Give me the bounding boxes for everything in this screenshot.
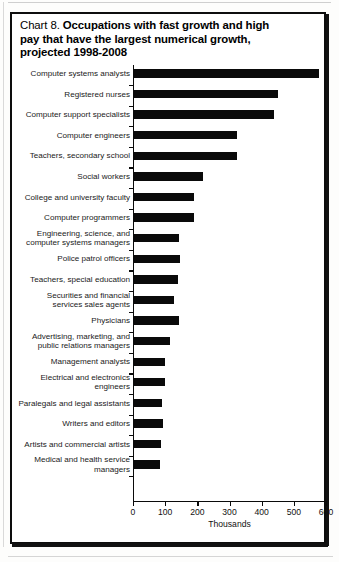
chart-title-line-2: pay that have the largest numerical grow… — [20, 33, 316, 47]
bar — [133, 460, 160, 468]
bar-category-label: Computer support specialists — [6, 106, 130, 119]
bar-category-label: Teachers, special education — [6, 271, 130, 284]
bar — [133, 440, 161, 448]
value-axis-tick-label: 200 — [182, 507, 212, 517]
bar-row: College and university faculty — [10, 189, 326, 210]
bar-row: Paralegals and legal assistants — [10, 395, 326, 416]
bar-category-label: Paralegals and legal assistants — [6, 395, 130, 408]
bar-category-label: Computer engineers — [6, 127, 130, 140]
bar — [133, 399, 162, 407]
bar-row: Writers and editors — [10, 415, 326, 436]
bar-category-label: Medical and health service managers — [6, 455, 130, 473]
bar-row: Registered nurses — [10, 86, 326, 107]
value-axis-tick — [133, 501, 134, 506]
bar-row: Computer programmers — [10, 209, 326, 230]
chart-number: Chart 8. — [20, 19, 60, 31]
value-axis-tick — [165, 501, 166, 506]
value-axis-tick-label: 300 — [215, 507, 245, 517]
bar-row: Computer engineers — [10, 127, 326, 148]
bar-category-label: Physicians — [6, 312, 130, 325]
bar-category-label: Police patrol officers — [6, 250, 130, 263]
bar-category-label: Engineering, science, and computer syste… — [6, 229, 130, 247]
bar-category-label: Advertising, marketing, and public relat… — [6, 332, 130, 350]
bar — [133, 131, 237, 139]
bar-row: Social workers — [10, 168, 326, 189]
bar-category-label: Computer systems analysts — [6, 65, 130, 78]
bar-row: Physicians — [10, 312, 326, 333]
bar-row: Electrical and electronics engineers — [10, 374, 326, 395]
bar-category-label: Computer programmers — [6, 209, 130, 222]
bar — [133, 234, 179, 242]
bar — [133, 316, 179, 324]
bar-row: Computer systems analysts — [10, 65, 326, 86]
bar-category-label: Securities and financial services sales … — [6, 291, 130, 309]
bar-row: Teachers, secondary school — [10, 147, 326, 168]
bar — [133, 378, 165, 386]
bar-category-label: Artists and commercial artists — [6, 436, 130, 449]
bar — [133, 419, 163, 427]
value-axis-tick — [230, 501, 231, 506]
bar-category-label: Teachers, secondary school — [6, 147, 130, 160]
chart-title-line-3: projected 1998-2008 — [20, 46, 316, 60]
chart-title: Chart 8. Occupations with fast growth an… — [20, 19, 316, 60]
category-axis-tick — [129, 476, 134, 477]
bar-category-label: Writers and editors — [6, 415, 130, 428]
bar-row: Teachers, special education — [10, 271, 326, 292]
bar-row: Advertising, marketing, and public relat… — [10, 333, 326, 354]
bar-row: Artists and commercial artists — [10, 436, 326, 457]
figure-page: Chart 8. Occupations with fast growth an… — [0, 0, 339, 562]
value-axis-tick — [294, 501, 295, 506]
page-bleed-top-rule — [8, 2, 331, 3]
bar-category-label: College and university faculty — [6, 189, 130, 202]
value-axis-tick-labels: 0100200300400500600 — [10, 507, 326, 519]
bar — [133, 337, 170, 345]
bar-category-label: Electrical and electronics engineers — [6, 373, 130, 391]
value-axis-tick-label: 500 — [279, 507, 309, 517]
bar — [133, 358, 165, 366]
bar-rows: Computer systems analystsRegistered nurs… — [10, 65, 326, 477]
bar-row: Management analysts — [10, 353, 326, 374]
value-axis-tick — [262, 501, 263, 506]
page-bleed-bottom-rule — [8, 556, 333, 557]
value-axis-tick-label: 0 — [118, 507, 148, 517]
bar-category-label: Registered nurses — [6, 86, 130, 99]
chart-title-line-1: Occupations with fast growth and high — [63, 19, 269, 31]
bar-category-label: Management analysts — [6, 353, 130, 366]
bar — [133, 110, 274, 118]
page-bleed-left-rule — [3, 2, 4, 547]
bar — [133, 213, 194, 221]
bar — [133, 193, 194, 201]
bar — [133, 172, 203, 180]
bar — [133, 69, 319, 77]
bar — [133, 275, 178, 283]
bar — [133, 255, 180, 263]
bar-row: Medical and health service managers — [10, 456, 326, 477]
value-axis-tick-label: 100 — [150, 507, 180, 517]
bar-category-label: Social workers — [6, 168, 130, 181]
value-axis-title: Thousands — [133, 519, 326, 529]
value-axis-tick — [326, 501, 327, 506]
value-axis-tick — [197, 501, 198, 506]
bar — [133, 296, 174, 304]
bar-row: Engineering, science, and computer syste… — [10, 230, 326, 251]
value-axis-ticks — [10, 501, 326, 502]
value-axis-tick-label: 600 — [311, 507, 339, 517]
value-axis-tick-label: 400 — [247, 507, 277, 517]
bar — [133, 152, 237, 160]
bar-row: Securities and financial services sales … — [10, 292, 326, 313]
bar-row: Police patrol officers — [10, 250, 326, 271]
chart-frame-right-rule — [326, 14, 329, 546]
bar-row: Computer support specialists — [10, 106, 326, 127]
bar — [133, 90, 278, 98]
chart-frame-bottom-rule — [12, 543, 328, 547]
plot-area: Computer systems analystsRegistered nurs… — [10, 60, 326, 530]
